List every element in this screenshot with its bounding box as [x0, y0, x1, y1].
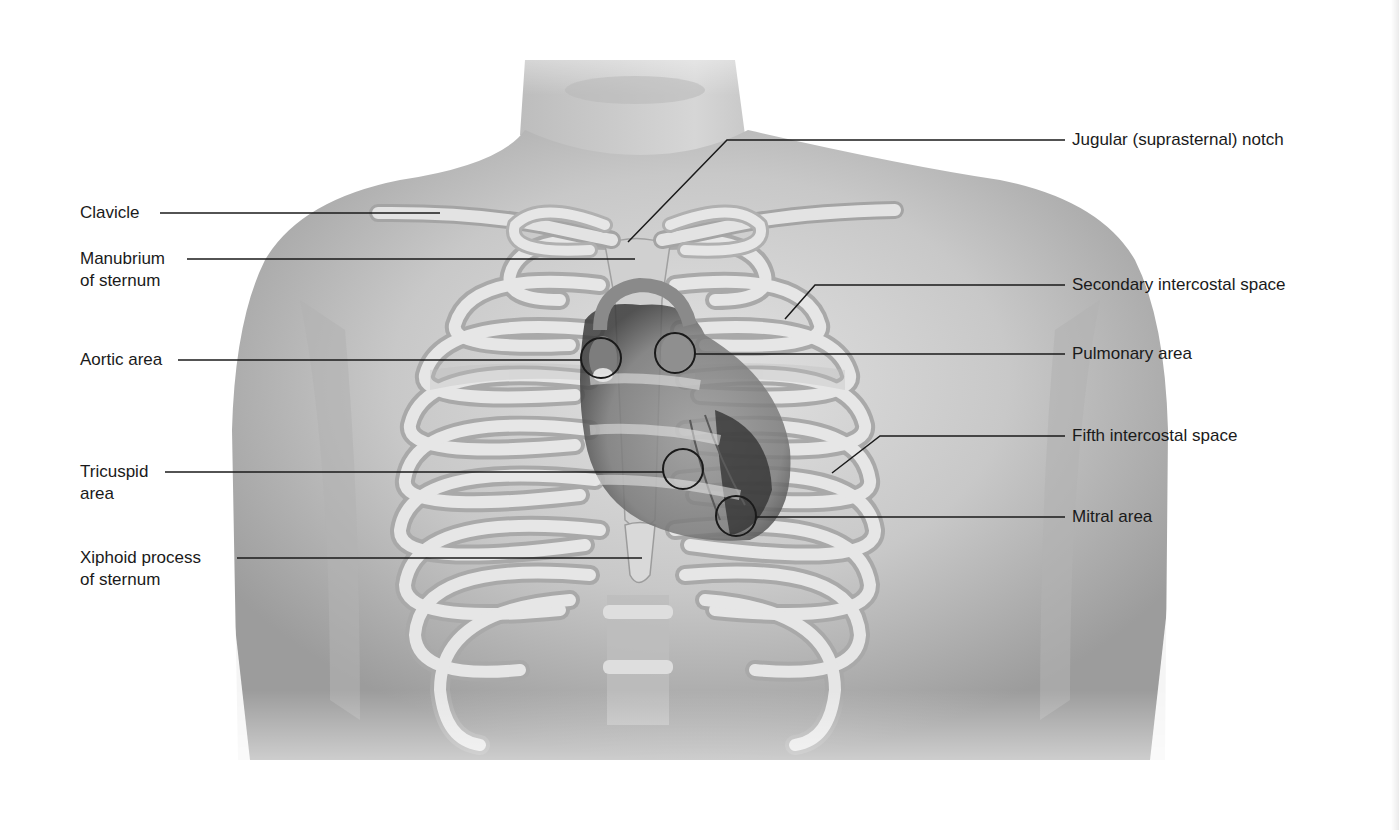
label-jugular-notch: Jugular (suprasternal) notch: [1072, 129, 1284, 151]
xiphoid-process-shape: [625, 523, 655, 583]
label-clavicle: Clavicle: [80, 202, 140, 224]
label-aortic-area: Aortic area: [80, 349, 162, 371]
label-mitral-area: Mitral area: [1072, 506, 1152, 528]
label-pulmonary-area: Pulmonary area: [1072, 343, 1192, 365]
label-secondary-intercostal-space: Secondary intercostal space: [1072, 274, 1286, 296]
label-tricuspid-area: Tricuspid area: [80, 461, 148, 505]
label-fifth-intercostal-space: Fifth intercostal space: [1072, 425, 1237, 447]
torso-illustration: [0, 0, 1399, 830]
label-xiphoid-process: Xiphoid process of sternum: [80, 547, 201, 591]
label-manubrium: Manubrium of sternum: [80, 248, 165, 292]
page-edge-shadow: [1391, 0, 1399, 830]
anatomy-figure: Clavicle Manubrium of sternum Aortic are…: [0, 0, 1399, 830]
